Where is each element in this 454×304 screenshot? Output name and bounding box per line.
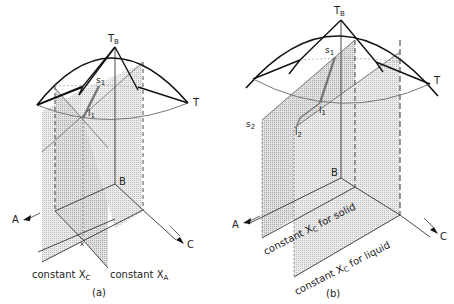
axis-arrows <box>0 0 454 304</box>
arrow-c-b-icon <box>430 227 438 234</box>
arrow-c-icon <box>176 237 184 244</box>
arrow-a-shaft <box>30 213 40 218</box>
arrow-a-b-icon <box>243 218 251 224</box>
arrow-c-b-shaft <box>424 218 434 228</box>
arrow-c-shaft <box>170 226 180 236</box>
arrow-a-icon <box>23 215 31 221</box>
arrow-a-b-shaft <box>250 216 260 221</box>
